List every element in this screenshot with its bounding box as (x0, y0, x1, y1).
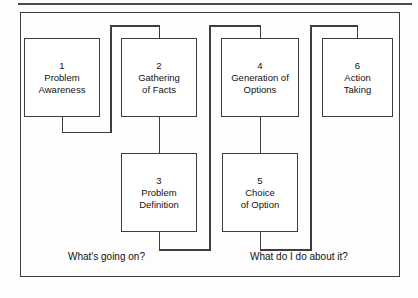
process-box-6[interactable]: 6 Action Taking (322, 38, 393, 117)
process-box-3[interactable]: 3 Problem Definition (121, 153, 197, 232)
process-box-4-number: 4 (257, 60, 262, 72)
process-box-2-label: Gathering of Facts (138, 72, 180, 96)
process-box-6-label: Action Taking (344, 72, 371, 96)
process-box-1-label: Problem Awareness (39, 72, 86, 96)
connector-1-to-2-right (62, 132, 112, 134)
connector-3-to-4-up (209, 25, 211, 250)
process-box-5-label: Choice of Option (241, 187, 280, 211)
diagram-canvas: 1 Problem Awareness 2 Gathering of Facts… (0, 0, 418, 298)
process-box-2-number: 2 (156, 60, 161, 72)
process-box-3-label: Problem Definition (139, 187, 179, 211)
process-box-5-number: 5 (257, 175, 262, 187)
process-box-2[interactable]: 2 Gathering of Facts (121, 38, 197, 117)
process-box-4-label: Generation of Options (231, 72, 289, 96)
caption-left: What's going on? (68, 251, 145, 262)
connector-3-to-4-right (159, 249, 211, 251)
connector-5-to-6-enter (357, 25, 359, 39)
process-box-1-number: 1 (59, 60, 64, 72)
process-box-5[interactable]: 5 Choice of Option (222, 153, 298, 232)
connector-3-to-4-down (159, 232, 161, 250)
connector-2-to-3 (159, 117, 161, 153)
process-box-4[interactable]: 4 Generation of Options (221, 38, 299, 117)
process-box-6-number: 6 (355, 60, 360, 72)
connector-1-to-2-up (110, 25, 112, 132)
top-divider-rule (18, 3, 412, 5)
connector-1-to-2-enter (159, 25, 161, 39)
connector-4-to-5 (260, 117, 262, 153)
process-box-3-number: 3 (156, 175, 161, 187)
connector-3-to-4-enter (260, 25, 262, 39)
connector-5-to-6-down (260, 232, 262, 250)
connector-1-to-2-top (110, 25, 160, 27)
caption-right: What do I do about it? (250, 251, 348, 262)
connector-5-to-6-up (310, 25, 312, 250)
connector-3-to-4-top (209, 25, 261, 27)
connector-5-to-6-top (310, 25, 358, 27)
process-box-1[interactable]: 1 Problem Awareness (24, 38, 100, 117)
